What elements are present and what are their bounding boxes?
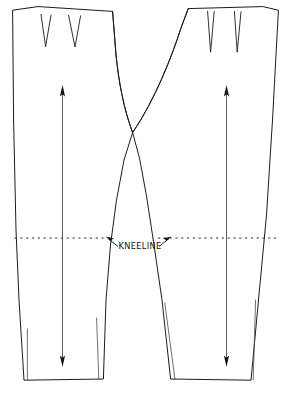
pattern-drawing: KNEELINE <box>0 0 291 397</box>
left-dart-2 <box>69 15 81 47</box>
pattern-diagram-canvas: KNEELINE <box>0 0 291 397</box>
right-piece-hem-folds <box>165 300 256 380</box>
kneeline-pointer-left <box>106 237 118 247</box>
right-dart-2 <box>234 11 241 52</box>
kneeline-annotation: KNEELINE <box>15 237 277 251</box>
front-left-leg-piece <box>13 7 133 381</box>
right-grainline-arrow <box>224 85 229 367</box>
kneeline-label: KNEELINE <box>119 241 162 251</box>
right-dart-1 <box>208 11 215 52</box>
left-inseam-hem-fold <box>97 318 99 379</box>
right-crotch-curve <box>133 9 189 133</box>
left-grainline-arrow <box>60 85 65 367</box>
left-crotch-curve <box>113 11 133 132</box>
left-piece-outline <box>13 7 133 381</box>
right-piece-outline <box>133 7 279 381</box>
front-right-leg-piece <box>133 7 279 381</box>
left-dart-1 <box>41 14 51 46</box>
right-piece-darts <box>208 11 241 52</box>
left-piece-darts <box>41 14 81 47</box>
left-piece-hem-folds <box>27 318 98 380</box>
